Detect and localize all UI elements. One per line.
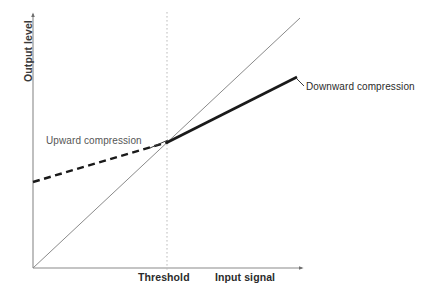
upward-compression-curve	[33, 142, 168, 182]
downward-compression-curve	[166, 77, 297, 143]
downward-compression-label: Downward compression	[306, 82, 415, 92]
compressor-curve-figure: Output level Input signal Threshold Upwa…	[0, 0, 428, 298]
x-axis-label: Input signal	[215, 272, 275, 283]
threshold-label: Threshold	[138, 272, 190, 283]
plot-canvas	[0, 0, 428, 298]
y-axis-label: Output level	[23, 20, 34, 82]
upward-compression-label: Upward compression	[46, 136, 142, 146]
downward-label-leader-line	[296, 78, 304, 86]
